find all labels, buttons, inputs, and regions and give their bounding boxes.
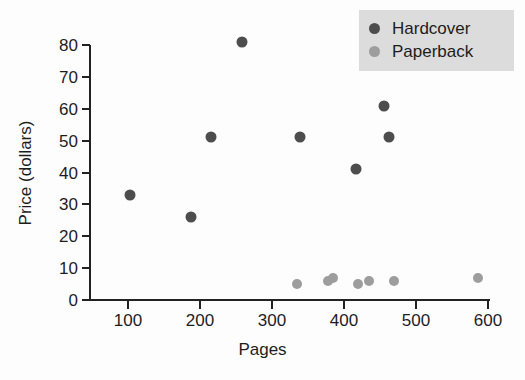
scatter-chart: 01020304050607080 100200300400500600 Pri…	[0, 0, 525, 380]
y-tick-mark	[82, 140, 90, 142]
data-point-paperback	[364, 276, 374, 286]
y-tick-mark	[82, 299, 90, 301]
y-tick-label: 40	[59, 164, 78, 181]
x-tick-label: 100	[114, 312, 142, 329]
legend-item-label: Hardcover	[392, 19, 470, 39]
x-tick-label: 300	[258, 312, 286, 329]
y-tick-label: 30	[59, 196, 78, 213]
x-tick-label: 400	[330, 312, 358, 329]
y-tick-label: 50	[59, 132, 78, 149]
data-point-hardcover	[205, 132, 216, 143]
y-tick-mark	[82, 203, 90, 205]
x-tick-label: 500	[402, 312, 430, 329]
x-tick-mark	[127, 301, 129, 309]
data-point-hardcover	[379, 100, 390, 111]
data-point-hardcover	[237, 36, 248, 47]
x-axis-line	[89, 299, 490, 301]
y-axis-title: Price (dollars)	[16, 63, 36, 283]
data-point-paperback	[292, 279, 302, 289]
y-tick-label: 60	[59, 100, 78, 117]
y-tick-label: 70	[59, 68, 78, 85]
data-point-paperback	[353, 279, 363, 289]
y-tick-mark	[82, 44, 90, 46]
x-tick-mark	[199, 301, 201, 309]
legend-item-hardcover[interactable]: Hardcover	[369, 17, 504, 40]
x-tick-mark	[415, 301, 417, 309]
data-point-paperback	[473, 273, 483, 283]
data-point-paperback	[389, 276, 399, 286]
legend-item-paperback[interactable]: Paperback	[369, 40, 504, 63]
legend-marker-icon	[369, 23, 380, 34]
data-point-hardcover	[383, 132, 394, 143]
data-point-hardcover	[125, 189, 136, 200]
x-axis-title: Pages	[0, 340, 525, 360]
x-tick-label: 600	[474, 312, 502, 329]
y-tick-mark	[82, 108, 90, 110]
y-tick-label: 0	[69, 292, 78, 309]
y-tick-mark	[82, 172, 90, 174]
data-point-hardcover	[295, 132, 306, 143]
chart-legend: HardcoverPaperback	[359, 10, 514, 71]
y-tick-mark	[82, 235, 90, 237]
x-tick-mark	[343, 301, 345, 309]
data-point-hardcover	[351, 164, 362, 175]
data-point-paperback	[328, 273, 338, 283]
x-tick-mark	[487, 301, 489, 309]
x-tick-mark	[271, 301, 273, 309]
y-tick-mark	[82, 76, 90, 78]
data-point-hardcover	[185, 212, 196, 223]
legend-item-label: Paperback	[392, 42, 473, 62]
y-tick-label: 80	[59, 37, 78, 54]
y-tick-mark	[82, 267, 90, 269]
y-tick-label: 10	[59, 260, 78, 277]
x-tick-label: 200	[186, 312, 214, 329]
legend-marker-icon	[369, 46, 380, 57]
y-tick-label: 20	[59, 228, 78, 245]
